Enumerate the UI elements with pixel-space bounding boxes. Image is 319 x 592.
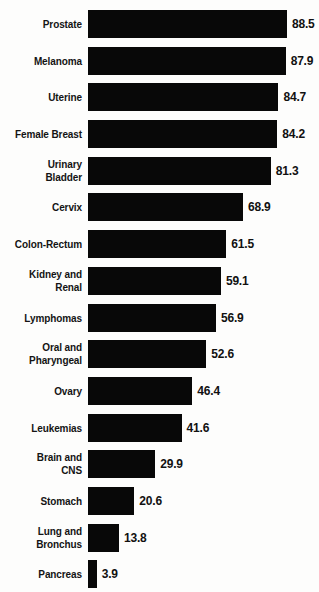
bar-value-label: 52.6 xyxy=(211,347,234,361)
bar xyxy=(88,10,287,38)
category-label-line: CNS xyxy=(0,464,82,477)
bar-value-label: 87.9 xyxy=(291,54,314,68)
category-label: Uterine xyxy=(0,83,82,104)
bar-group: 56.9 xyxy=(88,304,244,332)
category-label-line: Prostate xyxy=(0,18,82,31)
category-label: Melanoma xyxy=(0,47,82,68)
bar-value-label: 84.2 xyxy=(282,127,305,141)
bar xyxy=(88,560,97,588)
bar xyxy=(88,340,206,368)
category-label-line: Lung and xyxy=(0,525,82,538)
category-label: Stomach xyxy=(0,487,82,508)
chart-row: Cervix68.9 xyxy=(0,193,319,230)
bar-value-label: 3.9 xyxy=(102,567,118,581)
category-label-line: Bronchus xyxy=(0,538,82,551)
bar-value-label: 56.9 xyxy=(221,311,244,325)
bar xyxy=(88,414,182,442)
bar-group: 41.6 xyxy=(88,414,209,442)
bar-value-label: 68.9 xyxy=(248,200,271,214)
chart-row: UrinaryBladder81.3 xyxy=(0,157,319,194)
bar-group: 20.6 xyxy=(88,487,162,515)
category-label-line: Lymphomas xyxy=(0,312,82,325)
bar xyxy=(88,450,155,478)
chart-row: Melanoma87.9 xyxy=(0,47,319,84)
category-label-line: Oral and xyxy=(0,341,82,354)
bar-group: 61.5 xyxy=(88,230,254,258)
chart-row: Lung andBronchus13.8 xyxy=(0,524,319,561)
category-label-line: Female Breast xyxy=(0,128,82,141)
chart-row: Brain andCNS29.9 xyxy=(0,450,319,487)
bar-value-label: 46.4 xyxy=(197,384,220,398)
category-label: Ovary xyxy=(0,377,82,398)
bar-group: 13.8 xyxy=(88,524,147,552)
chart-row: Female Breast84.2 xyxy=(0,120,319,157)
bar xyxy=(88,304,216,332)
category-label: Brain andCNS xyxy=(0,450,82,477)
bar-value-label: 20.6 xyxy=(139,494,162,508)
category-label: Oral andPharyngeal xyxy=(0,340,82,367)
category-label: Prostate xyxy=(0,10,82,31)
bar-value-label: 81.3 xyxy=(276,164,299,178)
bar-group: 68.9 xyxy=(88,193,271,221)
category-label: UrinaryBladder xyxy=(0,157,82,184)
category-label: Female Breast xyxy=(0,120,82,141)
bar-group: 84.7 xyxy=(88,83,306,111)
bar xyxy=(88,487,134,515)
chart-row: Uterine84.7 xyxy=(0,83,319,120)
bar-group: 87.9 xyxy=(88,47,313,75)
category-label: Leukemias xyxy=(0,414,82,435)
bar-value-label: 88.5 xyxy=(292,17,315,31)
bar-value-label: 41.6 xyxy=(187,421,210,435)
chart-row: Oral andPharyngeal52.6 xyxy=(0,340,319,377)
bar-group: 81.3 xyxy=(88,157,298,185)
category-label: Kidney andRenal xyxy=(0,267,82,294)
category-label-line: Leukemias xyxy=(0,422,82,435)
category-label-line: Uterine xyxy=(0,91,82,104)
bar-group: 46.4 xyxy=(88,377,220,405)
bar-group: 29.9 xyxy=(88,450,183,478)
category-label-line: Bladder xyxy=(0,171,82,184)
bar-value-label: 13.8 xyxy=(124,531,147,545)
bar xyxy=(88,524,119,552)
category-label: Cervix xyxy=(0,193,82,214)
category-label: Lymphomas xyxy=(0,304,82,325)
chart-row: Colon-Rectum61.5 xyxy=(0,230,319,267)
bar xyxy=(88,377,192,405)
bar xyxy=(88,267,221,295)
category-label-line: Melanoma xyxy=(0,55,82,68)
chart-row: Lymphomas56.9 xyxy=(0,304,319,341)
bar-group: 3.9 xyxy=(88,560,118,588)
category-label: Colon-Rectum xyxy=(0,230,82,251)
horizontal-bar-chart: Prostate88.5Melanoma87.9Uterine84.7Femal… xyxy=(0,0,319,592)
bar xyxy=(88,193,243,221)
chart-row: Stomach20.6 xyxy=(0,487,319,524)
category-label-line: Stomach xyxy=(0,495,82,508)
bar xyxy=(88,120,277,148)
bar-value-label: 84.7 xyxy=(283,90,306,104)
category-label-line: Pancreas xyxy=(0,568,82,581)
bar-group: 52.6 xyxy=(88,340,234,368)
bar xyxy=(88,83,278,111)
category-label-line: Cervix xyxy=(0,201,82,214)
bar-group: 88.5 xyxy=(88,10,315,38)
category-label: Pancreas xyxy=(0,560,82,581)
chart-row: Prostate88.5 xyxy=(0,10,319,47)
bar-value-label: 61.5 xyxy=(231,237,254,251)
category-label-line: Renal xyxy=(0,281,82,294)
category-label-line: Brain and xyxy=(0,451,82,464)
bar xyxy=(88,230,226,258)
chart-row: Ovary46.4 xyxy=(0,377,319,414)
category-label-line: Kidney and xyxy=(0,268,82,281)
bar-group: 84.2 xyxy=(88,120,305,148)
bar xyxy=(88,157,271,185)
bar-value-label: 29.9 xyxy=(160,457,183,471)
chart-row: Leukemias41.6 xyxy=(0,414,319,451)
category-label: Lung andBronchus xyxy=(0,524,82,551)
category-label-line: Pharyngeal xyxy=(0,354,82,367)
chart-row: Kidney andRenal59.1 xyxy=(0,267,319,304)
bar-group: 59.1 xyxy=(88,267,248,295)
bar-value-label: 59.1 xyxy=(226,274,249,288)
category-label-line: Urinary xyxy=(0,158,82,171)
category-label-line: Ovary xyxy=(0,385,82,398)
bar xyxy=(88,47,286,75)
